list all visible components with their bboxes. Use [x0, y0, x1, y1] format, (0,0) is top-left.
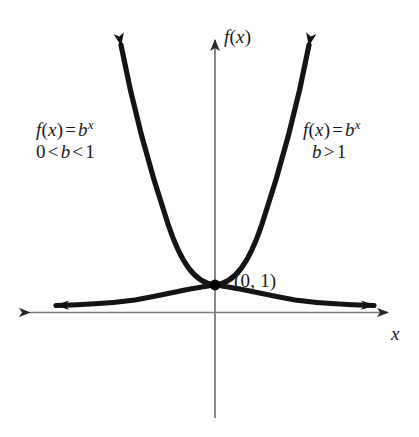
left-curve-condition: 0<b<1 — [36, 141, 95, 163]
right-eq-base: b — [345, 119, 355, 140]
right-curve-equation: f(x)=bx — [303, 119, 361, 141]
curve-decay — [121, 45, 374, 306]
x-axis-label: x — [391, 323, 400, 345]
graph-canvas — [0, 0, 419, 437]
left-curve-equation: f(x)=bx — [36, 119, 95, 141]
left-cond-lt2: < — [70, 141, 85, 162]
y-axis-label-var: x — [236, 26, 245, 47]
left-eq-var: x — [48, 119, 57, 140]
y-axis-label: f(x) — [224, 26, 251, 48]
y-axis-label-close: ) — [245, 26, 252, 47]
left-curve-annotation: f(x)=bx 0<b<1 — [36, 119, 95, 164]
intersection-point-marker — [210, 280, 221, 291]
right-curve-condition: b>1 — [303, 141, 361, 163]
left-cond-lo: 0 — [36, 141, 46, 162]
left-eq-equals: = — [63, 119, 78, 140]
right-eq-var: x — [315, 119, 324, 140]
intersection-point-label: (0, 1) — [234, 270, 276, 292]
left-eq-base: b — [78, 119, 88, 140]
left-eq-exponent: x — [88, 117, 94, 132]
right-eq-exponent: x — [355, 117, 361, 132]
left-cond-var: b — [61, 141, 71, 162]
left-cond-hi: 1 — [85, 141, 95, 162]
right-eq-equals: = — [330, 119, 345, 140]
exponential-function-figure: f(x) x f(x)=bx 0<b<1 f(x)=bx b>1 (0, 1) — [0, 0, 419, 437]
right-cond-gt: > — [322, 141, 337, 162]
curve-growth — [56, 45, 309, 306]
right-cond-hi: 1 — [337, 141, 347, 162]
right-cond-var: b — [312, 141, 322, 162]
right-curve-annotation: f(x)=bx b>1 — [303, 119, 361, 164]
left-cond-lt1: < — [46, 141, 61, 162]
